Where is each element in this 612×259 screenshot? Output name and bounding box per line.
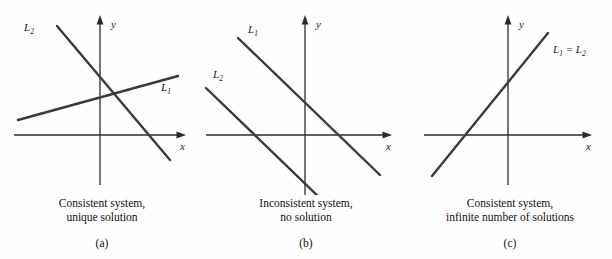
plot-area-c: y x L1 = L2 [408,0,612,185]
coordinate-plot-c [408,0,612,185]
caption-a-line1: Consistent system, [0,196,204,210]
y-axis-arrowhead-b [302,15,309,25]
x-axis-arrowhead-a [177,132,187,139]
panel-a: y x L2 L1 Consistent system, unique solu… [0,0,204,259]
line-label-L1-b: L1 [248,23,258,38]
x-axis-label-b: x [386,140,391,152]
plot-area-a: y x L2 L1 [0,0,204,185]
panel-c: y x L1 = L2 Consistent system, infinite … [408,0,612,259]
panel-letter-c: (c) [408,237,612,249]
y-axis-arrowhead-a [97,15,104,25]
line-label-L1-a: L1 [161,81,171,96]
y-axis-c [505,15,512,185]
y-axis-label-b: y [316,18,321,30]
panel-letter-b: (b) [204,237,408,249]
caption-c-line1: Consistent system, [408,196,612,210]
line-L1-a [18,76,178,120]
x-axis-arrowhead-b [383,132,393,139]
y-axis-arrowhead-c [505,15,512,25]
caption-b: Inconsistent system, no solution [204,196,408,225]
line-label-L1-equals-L2-c: L1 = L2 [553,43,586,58]
caption-c-line2: infinite number of solutions [408,210,612,224]
caption-a-line2: unique solution [0,210,204,224]
caption-a: Consistent system, unique solution [0,196,204,225]
caption-b-line2: no solution [204,210,408,224]
caption-b-line1: Inconsistent system, [204,196,408,210]
y-axis-label-c: y [519,18,524,30]
linear-systems-figure: y x L2 L1 Consistent system, unique solu… [0,0,612,259]
panel-b: y x L1 L2 Inconsistent system, no soluti… [204,0,408,259]
y-axis-label-a: y [111,18,116,30]
x-axis-label-a: x [180,140,185,152]
line-L1-equals-L2-c [432,33,548,176]
line-label-L2-b: L2 [213,68,223,83]
y-axis-a [97,15,104,185]
line-label-L2-a: L2 [24,21,34,36]
plot-area-b: y x L1 L2 [204,0,408,185]
line-L2-a [57,26,170,160]
x-axis-arrowhead-c [583,132,593,139]
x-axis-label-c: x [586,140,591,152]
line-L1-b [238,38,380,175]
caption-c: Consistent system, infinite number of so… [408,196,612,225]
panel-letter-a: (a) [0,237,204,249]
x-axis-b [206,132,392,139]
coordinate-plot-b [204,0,408,195]
